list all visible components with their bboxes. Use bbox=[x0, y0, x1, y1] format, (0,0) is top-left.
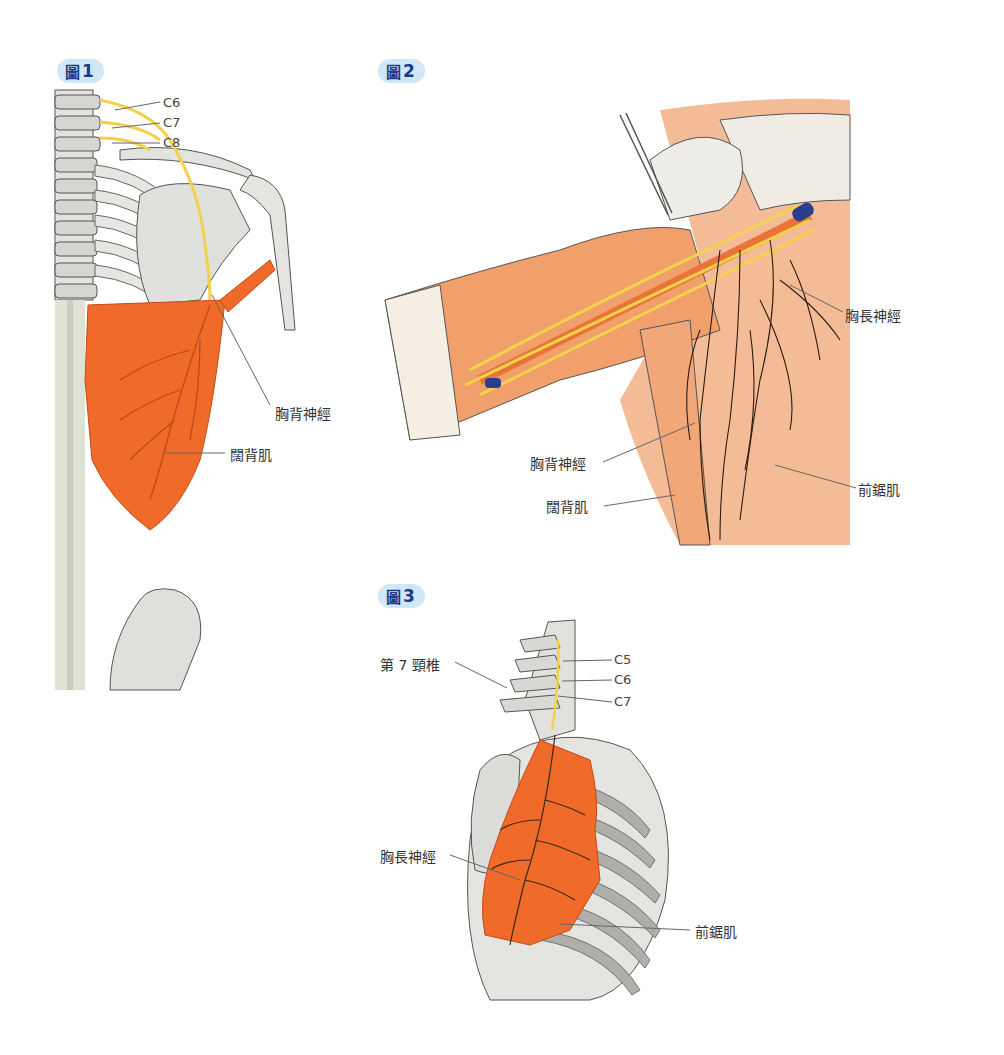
label-long-thoracic-nerve: 胸長神經 bbox=[380, 846, 436, 866]
figure-3-illustration bbox=[0, 0, 1004, 1055]
label-serratus-anterior: 前鋸肌 bbox=[695, 921, 737, 941]
label-seventh-cervical-vertebra: 第 7 頸椎 bbox=[380, 654, 440, 674]
label-c5: C5 bbox=[614, 652, 631, 667]
label-c7: C7 bbox=[614, 694, 631, 709]
label-c6: C6 bbox=[614, 672, 631, 687]
